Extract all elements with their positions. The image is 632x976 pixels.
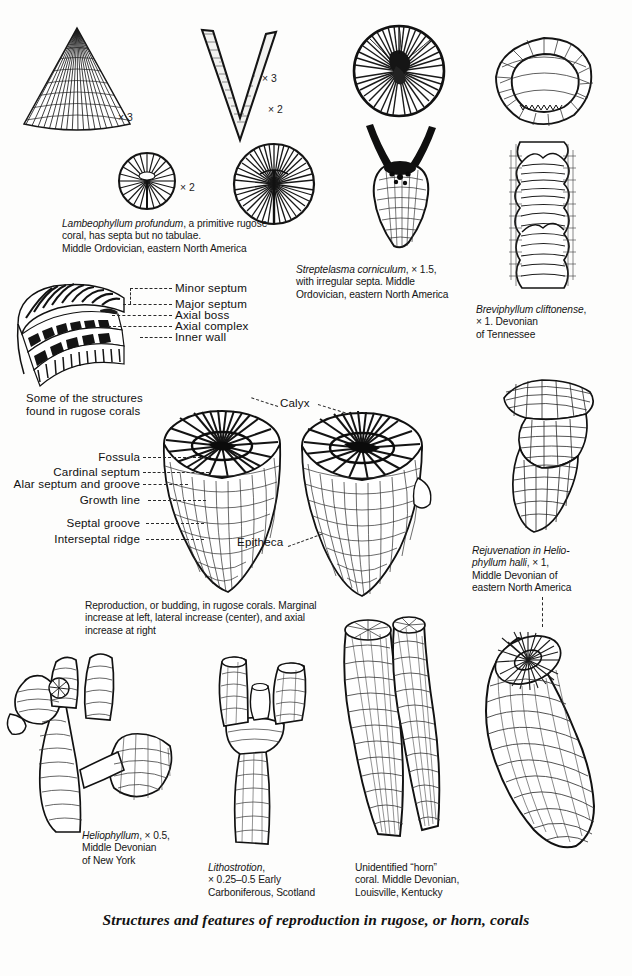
leader-axial-boss — [112, 315, 172, 316]
figure-lambeophyllum-small-disc — [116, 150, 178, 212]
magnification-lambeophyllum-fan: × 3 — [118, 112, 133, 123]
caption-streptelasma: Streptelasma corniculum, × 1.5, with irr… — [296, 264, 506, 301]
leader-inner-wall — [140, 337, 172, 338]
figure-streptelasma-corallum — [352, 122, 448, 250]
label-epitheca: Epitheca — [237, 535, 283, 548]
label-alar-septum-and-groove: Alar septum and groove — [0, 477, 140, 490]
magnification-lambeophyllum-v: × 3 — [262, 73, 277, 84]
leader-growth-line — [148, 500, 206, 501]
label-minor-septum: Minor septum — [175, 281, 247, 294]
species-name-lambeophyllum: Lambeophyllum profundum — [62, 218, 183, 229]
caption-heliophyllum: Heliophyllum, × 0.5, Middle Devonian of … — [82, 830, 202, 867]
figure-unidentified-horn-coral-pair — [330, 612, 452, 842]
leader-minor-septum-riser — [130, 288, 131, 304]
label-inner-wall: Inner wall — [175, 330, 226, 343]
figure-lambeophyllum-large-disc — [230, 140, 318, 228]
label-fossula: Fossula — [30, 450, 140, 463]
figure-streptelasma-calyx-disc — [350, 22, 448, 120]
leader-rejuvenation-to-specimen — [542, 597, 543, 627]
magnification-lambeophyllum-small-disc: × 2 — [180, 182, 195, 193]
figure-rejuvenation-heliophyllum-halli — [486, 376, 606, 536]
leader-alar-septum — [143, 484, 188, 485]
caption-lithostrotion: Lithostrotion, × 0.25–0.5 Early Carbonif… — [208, 862, 348, 899]
figure-lithostrotion-branching — [192, 652, 324, 850]
plate-title: Structures and features of reproduction … — [0, 911, 632, 929]
figure-budding-coral-right — [296, 408, 432, 598]
caption-reproduction: Reproduction, or budding, in rugose cora… — [85, 600, 355, 637]
figure-rugose-structures-cutaway — [14, 278, 138, 390]
label-calyx: Calyx — [280, 396, 310, 409]
species-name-streptelasma: Streptelasma corniculum — [296, 264, 406, 275]
species-name-breviphyllum: Breviphyllum cliftonense — [476, 304, 583, 315]
species-name-heliophyllum-halli: Rejuvenation in Helio- phyllum halli — [472, 545, 569, 568]
species-name-lithostrotion: Lithostrotion — [208, 862, 262, 873]
figure-breviphyllum-longitudinal — [498, 140, 590, 290]
caption-breviphyllum: Breviphyllum cliftonense, × 1. Devonian … — [476, 304, 626, 341]
leader-interseptal-ridge — [146, 539, 204, 540]
leader-axial-complex — [108, 326, 172, 327]
figure-horn-coral-spiral — [472, 624, 608, 856]
caption-lambeophyllum: Lambeophyllum profundum, a primitive rug… — [62, 218, 312, 255]
label-interseptal-ridge: Interseptal ridge — [8, 532, 140, 545]
leader-cardinal-septum — [143, 472, 209, 473]
figure-heliophyllum-colony — [4, 648, 184, 834]
caption-rejuvenation: Rejuvenation in Helio- phyllum halli, × … — [472, 545, 622, 595]
leader-major-septum — [123, 304, 172, 305]
magnification-lambeophyllum-large-disc: × 2 — [268, 104, 283, 115]
label-septal-groove: Septal groove — [14, 516, 140, 529]
leader-septal-groove — [146, 523, 204, 524]
species-name-heliophyllum: Heliophyllum — [82, 830, 139, 841]
figure-plate-page: × 3 — [0, 0, 632, 976]
leader-minor-septum — [130, 288, 172, 289]
label-growth-line: Growth line — [20, 493, 140, 506]
figure-breviphyllum-ring-section — [492, 35, 596, 129]
figure-budding-coral-left — [158, 406, 286, 596]
leader-fossula — [143, 457, 211, 458]
caption-unidentified-horn: Unidentified “horn” coral. Middle Devoni… — [355, 862, 515, 899]
figure-lambeophyllum-v-section — [196, 28, 284, 146]
